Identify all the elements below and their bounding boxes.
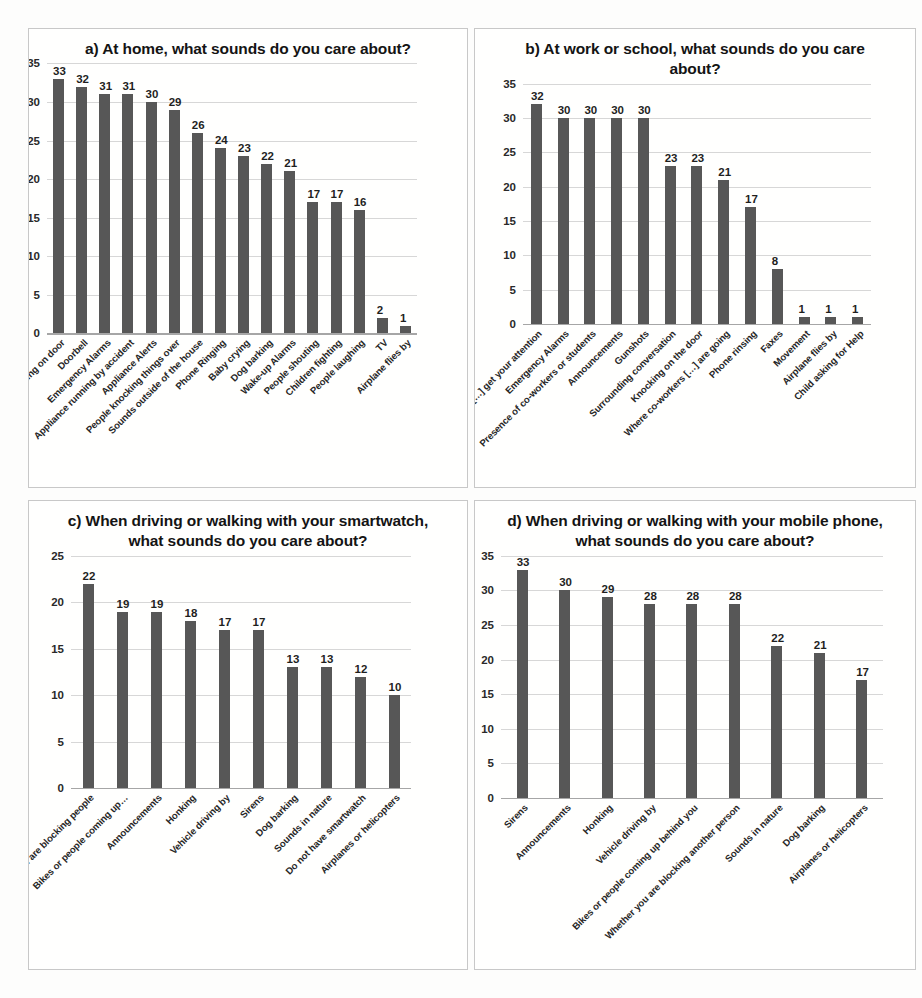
x-axis-label: TV	[374, 337, 390, 353]
x-label-slot: Faxes	[764, 326, 791, 327]
bar-slot: 17	[207, 556, 241, 788]
chart-title-b: b) At work or school, what sounds do you…	[475, 29, 915, 84]
y-axis-tick: 0	[488, 792, 494, 804]
bar-value-label: 17	[307, 188, 320, 200]
bar-slot: 24	[209, 63, 232, 333]
bar-slot: 22	[255, 63, 278, 333]
bar-series: 333231313029262423222117171621	[47, 63, 417, 333]
x-label-slot: Sounds in nature	[756, 800, 798, 801]
bar-series: 3230303030232321178111	[523, 84, 871, 324]
bar-value-label: 24	[215, 134, 228, 146]
bar: 13	[321, 667, 332, 788]
x-axis-label: Honking	[163, 792, 197, 826]
x-label-slot: Airplane flies by	[394, 335, 417, 336]
bar: 28	[686, 604, 697, 798]
bar-value-label: 30	[559, 576, 572, 588]
bar-slot: 32	[70, 63, 93, 333]
x-label-slot: Presence of co-workers or students	[577, 326, 604, 327]
bar-value-label: 17	[219, 616, 232, 628]
bar-slot: 13	[275, 556, 309, 788]
y-axis-tick: 20	[28, 173, 40, 185]
x-axis-labels-b: Co-workers […] get your attentionEmergen…	[523, 326, 871, 327]
x-axis-labels-d: SirensAnnouncementsHonkingVehicle drivin…	[501, 800, 883, 801]
x-label-slot: Sounds outside of the house	[186, 335, 209, 336]
bar-value-label: 31	[122, 80, 135, 92]
x-label-slot: Phone rinsing	[737, 326, 764, 327]
x-label-slot: Doorbell	[70, 335, 93, 336]
chart-title-d: d) When driving or walking with your mob…	[475, 501, 915, 556]
y-axis-tick: 15	[481, 688, 494, 700]
plot-area-d: 05101520253035333029282828222117	[501, 556, 883, 798]
bar: 29	[169, 110, 180, 334]
bar-slot: 13	[309, 556, 343, 788]
bar-value-label: 12	[355, 663, 368, 675]
y-axis-tick: 35	[28, 57, 40, 69]
y-axis-tick: 5	[488, 757, 494, 769]
y-axis-tick: 25	[28, 135, 40, 147]
bar-slot: 28	[713, 556, 755, 798]
bar: 33	[517, 570, 528, 798]
bar: 17	[856, 680, 867, 798]
x-label-slot: Vehicle driving by	[207, 790, 241, 791]
bar-value-label: 21	[718, 166, 731, 178]
bar-value-label: 18	[185, 607, 198, 619]
bar-slot: 19	[105, 556, 139, 788]
bar-slot: 16	[348, 63, 371, 333]
bar-slot: 33	[47, 63, 70, 333]
bar: 21	[814, 653, 825, 798]
x-label-slot: People knocking things over	[163, 335, 186, 336]
plot-area-c: 051015202522191918171713131210	[71, 556, 411, 788]
bar-slot: 29	[586, 556, 628, 798]
x-axis-label: Phone rinsing	[706, 328, 758, 380]
x-axis-label: Sirens	[238, 792, 266, 820]
bar-slot: 28	[671, 556, 713, 798]
x-label-slot: Sirens	[501, 800, 543, 801]
bar-slot: 1	[394, 63, 417, 333]
bar-value-label: 1	[852, 303, 858, 315]
x-label-slot: Bikes or people coming up behind you	[671, 800, 713, 801]
x-label-slot: Emergency Alarms	[550, 326, 577, 327]
bar-slot: 30	[603, 84, 630, 324]
x-label-slot: Phone Ringing	[209, 335, 232, 336]
x-label-slot: Airplanes or helicopters	[377, 790, 411, 791]
bar-value-label: 30	[558, 104, 571, 116]
bar: 24	[215, 148, 226, 333]
bar-value-label: 10	[389, 681, 402, 693]
bar-value-label: 22	[771, 632, 784, 644]
bar: 22	[771, 646, 782, 798]
bar-value-label: 2	[377, 304, 383, 316]
bar-series: 333029282828222117	[501, 556, 883, 798]
chart-panel-b: b) At work or school, what sounds do you…	[474, 28, 916, 488]
bar-slot: 33	[501, 556, 543, 798]
y-axis-tick: 5	[510, 284, 516, 296]
x-label-slot: Movement	[791, 326, 818, 327]
bar-value-label: 28	[686, 590, 699, 602]
x-label-slot: Airplane flies by	[817, 326, 844, 327]
bar: 17	[331, 202, 342, 333]
chart-title-c: c) When driving or walking with your sma…	[29, 501, 467, 556]
bar: 31	[122, 94, 133, 333]
x-label-slot: Knocking on door	[47, 335, 70, 336]
bar: 12	[355, 677, 366, 788]
bar: 21	[284, 171, 295, 333]
plot-b: 051015202530353230303030232321178111	[523, 84, 871, 324]
bar: 26	[192, 133, 203, 334]
bar: 2	[377, 318, 388, 333]
bar-slot: 23	[657, 84, 684, 324]
bar-value-label: 30	[638, 104, 651, 116]
x-axis-label: Presence of co-workers or students	[477, 328, 598, 449]
x-label-slot: Announcements	[543, 800, 585, 801]
y-axis-tick: 35	[481, 550, 494, 562]
bar: 19	[151, 612, 162, 788]
y-axis-tick: 30	[28, 96, 40, 108]
bar-value-label: 30	[611, 104, 624, 116]
x-label-slot: Honking	[173, 790, 207, 791]
chart-panel-c: c) When driving or walking with your sma…	[28, 500, 468, 970]
x-axis-labels-c: […] you are blocking peopleBikes or peop…	[71, 790, 411, 791]
y-axis-tick: 0	[510, 318, 516, 330]
bar-slot: 21	[278, 63, 301, 333]
bar: 33	[53, 79, 64, 334]
x-label-slot: Dog barking	[798, 800, 840, 801]
bar: 10	[389, 695, 400, 788]
x-label-slot: Child asking for Help	[844, 326, 871, 327]
